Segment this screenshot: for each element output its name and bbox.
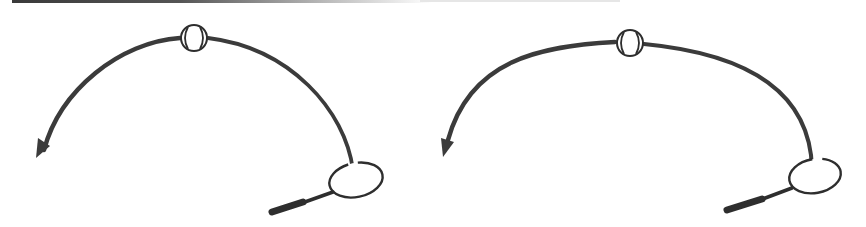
right-arrowhead-icon: [441, 138, 454, 157]
right-racket-icon: [727, 155, 844, 210]
left-trajectory-left-segment: [44, 38, 180, 150]
left-trajectory-right-segment: [208, 38, 353, 170]
right-ball-icon: [617, 30, 643, 56]
left-racket-icon: [272, 158, 386, 212]
left-panel: [36, 25, 386, 212]
right-trajectory-right-segment: [644, 44, 812, 168]
right-panel: [441, 30, 844, 210]
trajectory-diagram: [0, 0, 866, 227]
right-trajectory-left-segment: [448, 42, 615, 140]
left-ball-icon: [181, 25, 207, 51]
